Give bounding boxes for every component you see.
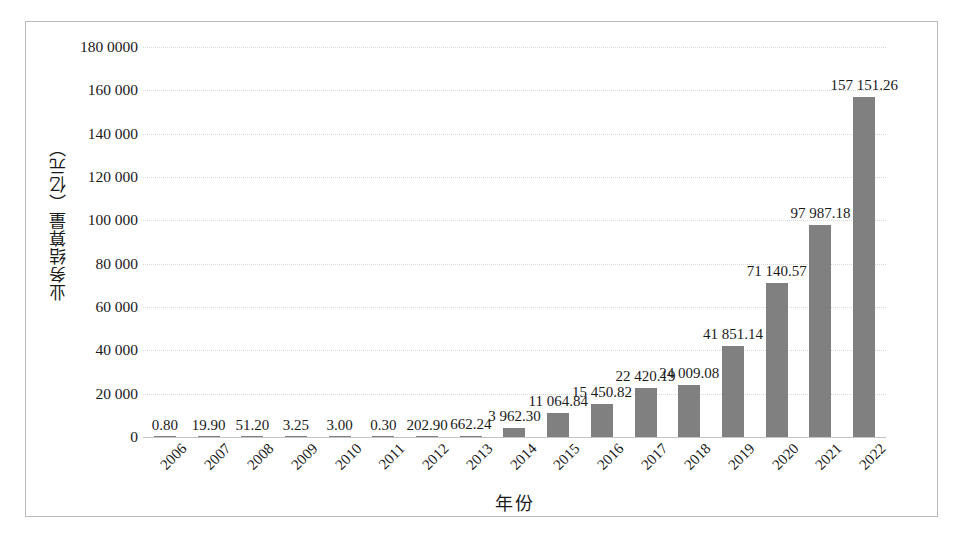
y-axis-tick-label: 20 000 [60, 386, 138, 402]
bar-slot [143, 47, 187, 437]
x-axis-tick-label: 2017 [638, 441, 670, 473]
bar-slot [405, 47, 449, 437]
bar[interactable] [635, 388, 657, 437]
bar-series [143, 47, 886, 437]
x-axis-tick-label: 2022 [857, 441, 889, 473]
y-axis-tick-label: 120 000 [60, 169, 138, 185]
x-axis-tick-label: 2006 [158, 441, 190, 473]
bar[interactable] [241, 436, 263, 437]
bar-slot [624, 47, 668, 437]
bar-slot [536, 47, 580, 437]
x-axis-tick-label: 2012 [420, 441, 452, 473]
y-axis-tick-label: 60 000 [60, 299, 138, 315]
y-axis-tick-label: 40 000 [60, 343, 138, 359]
x-axis-tick-label: 2009 [289, 441, 321, 473]
bar[interactable] [722, 346, 744, 437]
bar[interactable] [329, 436, 351, 437]
x-axis-tick-label: 2014 [507, 441, 539, 473]
bar-slot [711, 47, 755, 437]
bar-slot [755, 47, 799, 437]
bar-slot [842, 47, 886, 437]
bar[interactable] [809, 225, 831, 437]
x-axis-title: 年份 [143, 489, 886, 515]
y-axis-tick-label: 160 000 [60, 83, 138, 99]
bar[interactable] [591, 404, 613, 437]
y-axis-tick-label: 0 [60, 429, 138, 445]
y-axis-tick-label: 80 000 [60, 256, 138, 272]
bar[interactable] [198, 436, 220, 437]
bar-slot [274, 47, 318, 437]
x-axis-tick-label: 2015 [551, 441, 583, 473]
x-axis-tick-label: 2016 [595, 441, 627, 473]
x-axis-tick-label: 2019 [726, 441, 758, 473]
bar-slot [580, 47, 624, 437]
y-axis-tick-label: 100 000 [60, 213, 138, 229]
bar[interactable] [416, 436, 438, 437]
x-axis-tick-label: 2008 [245, 441, 277, 473]
bar-slot [449, 47, 493, 437]
x-axis-tick-label: 2018 [682, 441, 714, 473]
x-axis-tick-label: 2010 [332, 441, 364, 473]
bar[interactable] [154, 436, 176, 437]
bar-slot [318, 47, 362, 437]
x-axis-line [143, 437, 886, 438]
y-axis-tick-labels: 020 00040 00060 00080 000100 000120 0001… [60, 0, 138, 447]
bar-slot [667, 47, 711, 437]
x-axis-tick-label: 2020 [770, 441, 802, 473]
bar-slot [230, 47, 274, 437]
x-axis-tick-label: 2021 [813, 441, 845, 473]
bar[interactable] [678, 385, 700, 437]
bar[interactable] [503, 428, 525, 437]
bar-slot [799, 47, 843, 437]
bar[interactable] [285, 436, 307, 437]
x-axis-tick-labels: 2006200720082009201020112012201320142015… [143, 441, 886, 491]
x-axis-tick-label: 2007 [201, 441, 233, 473]
bar[interactable] [853, 97, 875, 437]
x-axis-tick-label: 2013 [464, 441, 496, 473]
bar[interactable] [547, 413, 569, 437]
bar-slot [362, 47, 406, 437]
bar-slot [187, 47, 231, 437]
y-axis-tick-label: 140 000 [60, 126, 138, 142]
x-axis-tick-label: 2011 [377, 441, 408, 472]
bar[interactable] [372, 436, 394, 437]
bar[interactable] [460, 436, 482, 437]
bar-slot [493, 47, 537, 437]
bar[interactable] [766, 283, 788, 437]
y-axis-tick-label: 180 0000 [60, 39, 138, 55]
